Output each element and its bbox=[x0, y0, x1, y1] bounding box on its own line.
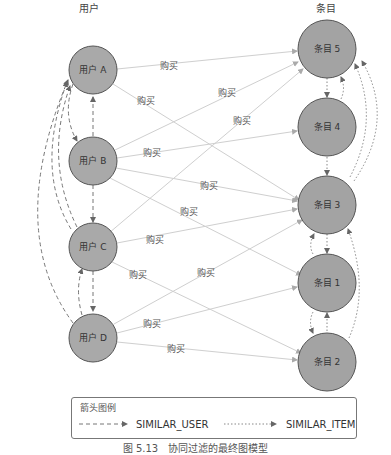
purchase-label: 购买 bbox=[146, 234, 164, 245]
user-node-label: 用户 A bbox=[79, 64, 107, 75]
purchase-label: 购买 bbox=[143, 318, 161, 329]
item-node-5[interactable]: 条目 5 bbox=[298, 20, 356, 78]
purchase-label: 购买 bbox=[160, 60, 178, 71]
purchase-label: 购买 bbox=[233, 115, 251, 126]
user-node-a[interactable]: 用户 A bbox=[69, 46, 117, 94]
item-node-3[interactable]: 条目 3 bbox=[298, 176, 356, 234]
purchase-label: 购买 bbox=[180, 206, 198, 217]
users-column-title: 用户 bbox=[79, 2, 99, 14]
arrow-legend: 箭头图例 SIMILAR_USER SIMILAR_ITEM bbox=[71, 397, 357, 439]
purchase-label: 购买 bbox=[167, 343, 185, 354]
item-node-label: 条目 1 bbox=[314, 277, 341, 288]
user-node-label: 用户 B bbox=[79, 155, 106, 166]
purchase-label: 购买 bbox=[200, 180, 218, 191]
legend-similar-item: SIMILAR_ITEM bbox=[286, 419, 355, 430]
item-node-label: 条目 4 bbox=[314, 121, 341, 132]
figure-caption: 图 5.13 协同过滤的最终图模型 bbox=[0, 440, 391, 455]
item-node-4[interactable]: 条目 4 bbox=[298, 98, 356, 156]
purchase-label: 购买 bbox=[143, 147, 161, 158]
item-node-label: 条目 3 bbox=[314, 199, 341, 210]
purchase-label: 购买 bbox=[129, 269, 147, 280]
legend-similar-user: SIMILAR_USER bbox=[136, 419, 208, 430]
user-node-c[interactable]: 用户 C bbox=[69, 223, 117, 271]
item-node-label: 条目 5 bbox=[314, 43, 341, 54]
user-node-b[interactable]: 用户 B bbox=[69, 137, 117, 185]
item-node-label: 条目 2 bbox=[314, 356, 341, 367]
items-column-title: 条目 bbox=[316, 2, 336, 14]
purchase-labels: 购买 购买 购买 购买 购买 购买 购买 购买 购买 购买 购买 购买 bbox=[129, 60, 251, 354]
item-node-1[interactable]: 条目 1 bbox=[298, 254, 356, 312]
legend-lines bbox=[72, 398, 356, 438]
purchase-label: 购买 bbox=[137, 95, 155, 106]
purchase-label: 购买 bbox=[218, 87, 236, 98]
user-node-label: 用户 C bbox=[79, 241, 106, 252]
item-node-2[interactable]: 条目 2 bbox=[298, 333, 356, 391]
user-node-d[interactable]: 用户 D bbox=[69, 314, 117, 362]
purchase-label: 购买 bbox=[197, 267, 215, 278]
similar-user-edges bbox=[38, 80, 93, 323]
user-node-label: 用户 D bbox=[79, 332, 107, 343]
